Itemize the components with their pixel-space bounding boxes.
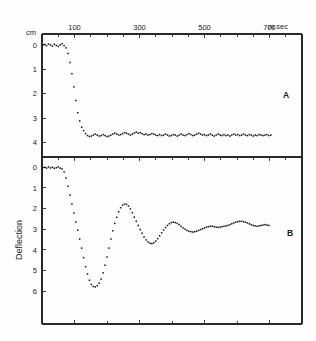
data-point-panel-b <box>176 223 178 225</box>
data-point-panel-a <box>48 43 50 45</box>
y-tick-label-panel-b: 4 <box>33 246 37 255</box>
data-point-panel-b <box>89 280 91 282</box>
data-point-panel-b <box>221 226 223 228</box>
data-point-panel-a <box>104 135 106 137</box>
data-point-panel-a <box>161 135 163 137</box>
data-point-panel-b <box>229 224 231 226</box>
data-point-panel-a <box>214 135 216 137</box>
data-point-panel-a <box>126 132 128 134</box>
data-point-panel-a <box>44 44 46 46</box>
data-point-panel-b <box>50 167 52 169</box>
data-point-panel-b <box>200 229 202 231</box>
data-point-panel-b <box>145 239 147 241</box>
data-point-panel-b <box>198 230 200 232</box>
data-point-panel-b <box>258 225 260 227</box>
data-point-panel-a <box>231 134 233 136</box>
x-tick-label: 300 <box>133 23 146 32</box>
data-point-panel-a <box>130 134 132 136</box>
data-point-panel-b <box>108 247 110 249</box>
data-point-panel-a <box>192 135 194 137</box>
data-point-panel-a <box>167 134 169 136</box>
data-point-panel-a <box>256 135 258 137</box>
data-point-panel-b <box>262 224 264 226</box>
data-point-panel-a <box>116 133 118 135</box>
data-point-panel-a <box>151 133 153 135</box>
y-axis-title-deflection: Deflection <box>14 220 24 260</box>
data-point-panel-b <box>77 229 79 231</box>
data-point-panel-b <box>126 204 128 206</box>
data-point-panel-b <box>71 203 73 205</box>
data-point-panel-a <box>120 134 122 136</box>
data-point-panel-a <box>87 135 89 137</box>
data-point-panel-b <box>157 238 159 240</box>
data-point-panel-a <box>241 134 243 136</box>
data-point-panel-a <box>132 133 134 135</box>
data-point-panel-a <box>97 134 99 136</box>
data-point-panel-a <box>182 134 184 136</box>
data-point-panel-a <box>202 134 204 136</box>
data-point-panel-b <box>215 226 217 228</box>
data-point-panel-b <box>75 221 77 223</box>
labels-layer: 100300500700012340123456m seccmABDeflect… <box>14 22 293 296</box>
data-point-panel-b <box>173 221 175 223</box>
data-point-panel-a <box>253 135 255 137</box>
data-point-panel-b <box>253 225 255 227</box>
y-tick-label-panel-b: 2 <box>33 204 37 213</box>
data-point-panel-b <box>69 194 71 196</box>
data-point-panel-a <box>251 134 253 136</box>
data-point-panel-b <box>182 227 184 229</box>
data-point-panel-b <box>231 223 233 225</box>
data-point-panel-b <box>132 212 134 214</box>
data-point-panel-a <box>95 133 97 135</box>
y-tick-label-panel-a: 4 <box>33 138 37 147</box>
y-tick-label-panel-a: 1 <box>33 65 37 74</box>
data-point-panel-b <box>120 207 122 209</box>
data-point-panel-b <box>79 238 81 240</box>
data-point-panel-b <box>243 221 245 223</box>
data-point-panel-b <box>97 285 99 287</box>
data-point-panel-b <box>165 227 167 229</box>
data-point-panel-a <box>67 53 69 55</box>
data-point-panel-a <box>221 135 223 137</box>
data-point-panel-a <box>83 130 85 132</box>
data-point-panel-a <box>165 133 167 135</box>
data-point-panel-b <box>87 273 89 275</box>
data-point-panel-b <box>134 216 136 218</box>
data-point-panel-a <box>198 132 200 134</box>
data-point-panel-b <box>151 243 153 245</box>
data-point-panel-a <box>266 134 268 136</box>
data-point-panel-a <box>59 44 61 46</box>
data-point-panel-a <box>46 45 48 47</box>
data-point-panel-b <box>159 235 161 237</box>
data-point-panel-b <box>227 225 229 227</box>
data-point-panel-b <box>192 231 194 233</box>
data-point-panel-b <box>116 216 118 218</box>
data-point-panel-a <box>89 136 91 138</box>
data-point-panel-a <box>254 134 256 136</box>
data-point-panel-a <box>77 112 79 114</box>
data-point-panel-a <box>233 133 235 135</box>
data-point-panel-b <box>83 257 85 259</box>
data-point-panel-a <box>243 133 245 135</box>
y-tick-label-panel-b: 1 <box>33 184 37 193</box>
data-point-panel-b <box>260 225 262 227</box>
y-tick-label-panel-a: 3 <box>33 114 37 123</box>
data-point-panel-b <box>247 222 249 224</box>
data-point-panel-a <box>100 135 102 137</box>
data-point-panel-b <box>194 231 196 233</box>
panel-a-letter: A <box>283 90 289 100</box>
data-point-panel-a <box>153 133 155 135</box>
data-point-panel-a <box>42 45 44 47</box>
data-point-panel-a <box>143 134 145 136</box>
data-point-panel-a <box>225 135 227 137</box>
data-point-panel-b <box>67 186 69 188</box>
panel-b-data-points <box>42 166 270 287</box>
data-point-panel-a <box>159 134 161 136</box>
data-point-panel-a <box>75 100 77 102</box>
data-point-panel-b <box>118 211 120 213</box>
data-point-panel-b <box>61 168 63 170</box>
data-point-panel-a <box>69 62 71 64</box>
data-point-panel-a <box>262 135 264 137</box>
data-point-panel-b <box>122 204 124 206</box>
data-point-panel-b <box>104 264 106 266</box>
